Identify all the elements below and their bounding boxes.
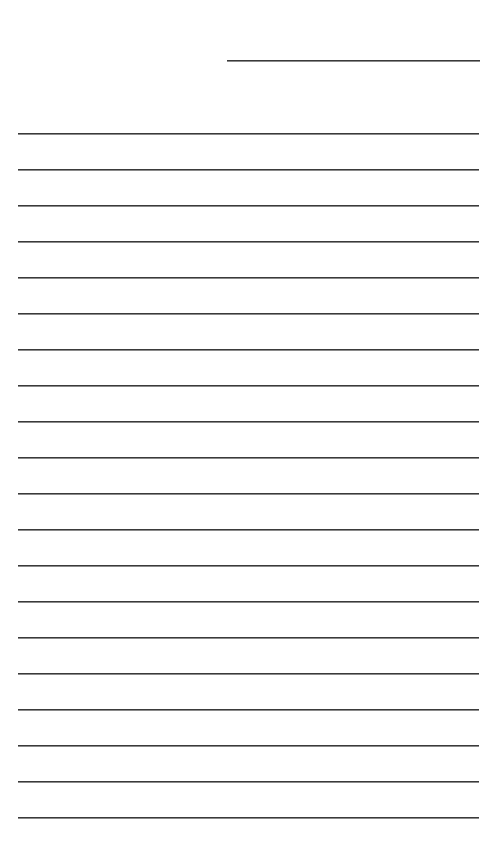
ruled-line — [18, 277, 479, 279]
ruled-line — [18, 745, 479, 747]
ruled-line — [18, 169, 479, 171]
ruled-line — [18, 457, 479, 459]
ruled-line — [18, 313, 479, 315]
ruled-line — [18, 349, 479, 351]
ruled-line — [18, 781, 479, 783]
ruled-line — [18, 817, 479, 819]
ruled-line — [18, 241, 479, 243]
ruled-line — [18, 709, 479, 711]
ruled-line — [18, 133, 479, 135]
ruled-line — [18, 637, 479, 639]
ruled-line — [18, 601, 479, 603]
ruled-line — [18, 529, 479, 531]
ruled-line — [18, 565, 479, 567]
ruled-line — [18, 493, 479, 495]
header-name-line — [227, 60, 480, 62]
ruled-line — [18, 421, 479, 423]
ruled-line — [18, 385, 479, 387]
ruled-line — [18, 673, 479, 675]
ruled-line — [18, 205, 479, 207]
